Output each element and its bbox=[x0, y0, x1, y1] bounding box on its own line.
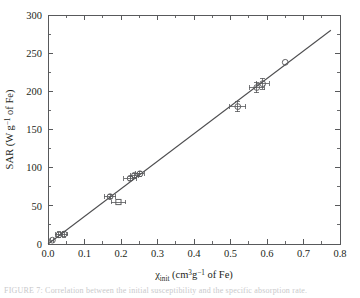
x-axis-title: χinit (cm3g−1 of Fe) bbox=[154, 269, 233, 283]
x-tick-label-8: 0.8 bbox=[333, 248, 346, 259]
scatter-plot: 0.00.10.20.30.40.50.60.70.80501001502002… bbox=[0, 0, 360, 298]
data-point-0 bbox=[49, 237, 55, 243]
y-tick-label-2: 100 bbox=[26, 162, 42, 173]
x-tick-label-4: 0.4 bbox=[187, 248, 201, 259]
data-point-4 bbox=[111, 199, 126, 204]
x-tick-label-0: 0.0 bbox=[41, 248, 54, 259]
y-axis-title: SAR (W g−1 of Fe) bbox=[4, 89, 16, 169]
x-tick-label-6: 0.6 bbox=[260, 248, 273, 259]
x-tick-label-1: 0.1 bbox=[78, 248, 91, 259]
y-tick-label-6: 300 bbox=[26, 10, 42, 21]
x-tick-label-7: 0.7 bbox=[297, 248, 310, 259]
y-tick-label-3: 150 bbox=[26, 124, 42, 135]
x-tick-label-2: 0.2 bbox=[114, 248, 127, 259]
data-point-8 bbox=[230, 101, 246, 112]
plot-frame bbox=[48, 15, 340, 244]
clipped-caption-text: FIGURE 7: Correlation between the initia… bbox=[0, 286, 360, 298]
y-tick-label-4: 200 bbox=[26, 86, 42, 97]
x-tick-label-3: 0.3 bbox=[151, 248, 164, 259]
data-point-2 bbox=[60, 231, 67, 237]
y-tick-label-1: 50 bbox=[32, 201, 43, 212]
x-tick-label-5: 0.5 bbox=[224, 248, 237, 259]
figure-container: 0.00.10.20.30.40.50.60.70.80501001502002… bbox=[0, 0, 360, 298]
y-tick-label-0: 0 bbox=[37, 239, 42, 250]
y-tick-label-5: 250 bbox=[26, 48, 42, 59]
